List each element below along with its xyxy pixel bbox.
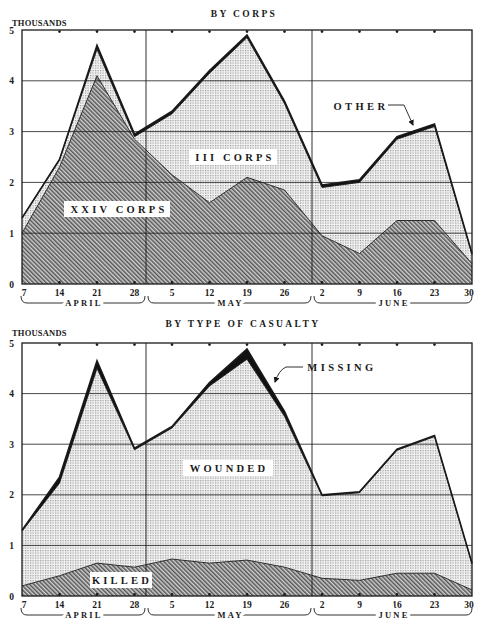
iii-corps-label: III CORPS	[195, 152, 274, 163]
x-tick-label: 2	[320, 288, 325, 298]
casualty-chart-y-unit-label: THOUSANDS	[12, 328, 67, 338]
tick-mark	[58, 281, 61, 284]
y-tick-label: 4	[9, 389, 14, 399]
x-tick-label: 28	[130, 288, 140, 298]
month-label-may: MAY	[217, 610, 243, 620]
y-tick-label: 3	[9, 440, 14, 450]
corps-chart: BY CORPS THOUSANDS 012345714212851219262…	[9, 9, 474, 308]
tick-mark	[133, 30, 136, 33]
x-tick-label: 7	[22, 288, 27, 298]
missing-label: MISSING	[307, 362, 376, 373]
corps-chart-y-unit-label: THOUSANDS	[12, 18, 67, 28]
tick-mark	[171, 343, 174, 346]
tick-mark	[133, 281, 136, 284]
x-tick-label: 16	[392, 288, 402, 298]
tick-mark	[433, 281, 436, 284]
x-tick-label: 14	[55, 288, 65, 298]
x-tick-label: 5	[170, 600, 175, 610]
y-tick-label: 4	[9, 76, 14, 86]
x-tick-label: 12	[205, 288, 215, 298]
y-tick-label: 5	[9, 339, 14, 349]
x-tick-label: 23	[430, 288, 440, 298]
x-tick-label: 21	[92, 288, 102, 298]
tick-mark	[96, 30, 99, 33]
tick-mark	[96, 593, 99, 596]
casualty-chart: BY TYPE OF CASUALTY THOUSANDS 0123457142…	[9, 319, 474, 620]
tick-mark	[358, 281, 361, 284]
other-label: OTHER	[334, 101, 389, 112]
tick-mark	[283, 343, 286, 346]
corps-chart-title: BY CORPS	[211, 9, 278, 19]
x-tick-label: 12	[205, 600, 215, 610]
y-tick-label: 5	[9, 26, 14, 36]
tick-mark	[96, 281, 99, 284]
tick-mark	[246, 281, 249, 284]
x-tick-label: 26	[280, 600, 290, 610]
month-label-june: JUNE	[379, 610, 410, 620]
tick-mark	[246, 30, 249, 33]
x-tick-label: 5	[170, 288, 175, 298]
x-tick-label: 9	[357, 288, 362, 298]
tick-mark	[396, 30, 399, 33]
figure: BY CORPS THOUSANDS 012345714212851219262…	[0, 0, 481, 624]
y-tick-label: 1	[9, 541, 14, 551]
x-tick-label: 9	[357, 600, 362, 610]
y-tick-label: 0	[9, 280, 14, 290]
month-label-june: JUNE	[379, 298, 410, 308]
tick-mark	[58, 343, 61, 346]
tick-mark	[433, 593, 436, 596]
tick-mark	[321, 593, 324, 596]
tick-mark	[358, 343, 361, 346]
tick-mark	[321, 281, 324, 284]
tick-mark	[58, 593, 61, 596]
tick-mark	[246, 343, 249, 346]
other-callout-arrow-icon	[388, 105, 413, 125]
tick-mark	[208, 343, 211, 346]
month-label-april: APRIL	[65, 298, 102, 308]
tick-mark	[358, 30, 361, 33]
tick-mark	[133, 593, 136, 596]
y-tick-label: 2	[9, 178, 14, 188]
tick-mark	[396, 281, 399, 284]
tick-mark	[58, 30, 61, 33]
tick-mark	[433, 30, 436, 33]
tick-mark	[433, 343, 436, 346]
tick-mark	[171, 281, 174, 284]
x-tick-label: 16	[392, 600, 402, 610]
x-tick-label: 26	[280, 288, 290, 298]
casualty-chart-plot: 0123457142128512192629162330APRILMAYJUNE	[9, 339, 474, 621]
tick-mark	[358, 593, 361, 596]
x-tick-label: 23	[430, 600, 440, 610]
tick-mark	[208, 281, 211, 284]
tick-mark	[396, 593, 399, 596]
tick-mark	[283, 593, 286, 596]
corps-chart-plot: 0123457142128512192629162330APRILMAYJUNE	[9, 26, 474, 309]
tick-mark	[96, 343, 99, 346]
tick-mark	[396, 343, 399, 346]
tick-mark	[283, 30, 286, 33]
missing-callout-arrow-icon	[275, 367, 303, 382]
killed-label: KILLED	[92, 575, 152, 586]
y-tick-label: 0	[9, 592, 14, 602]
y-tick-label: 2	[9, 490, 14, 500]
tick-mark	[321, 343, 324, 346]
tick-mark	[208, 593, 211, 596]
casualty-chart-title: BY TYPE OF CASUALTY	[166, 319, 321, 329]
month-label-may: MAY	[217, 298, 243, 308]
tick-mark	[246, 593, 249, 596]
x-tick-label: 30	[464, 600, 474, 610]
x-tick-label: 30	[464, 288, 474, 298]
wounded-label: WOUNDED	[190, 463, 268, 474]
y-tick-label: 1	[9, 229, 14, 239]
x-tick-label: 21	[92, 600, 102, 610]
x-tick-label: 19	[242, 600, 252, 610]
tick-mark	[171, 593, 174, 596]
tick-mark	[171, 30, 174, 33]
x-tick-label: 28	[130, 600, 140, 610]
tick-mark	[133, 343, 136, 346]
tick-mark	[283, 281, 286, 284]
month-label-april: APRIL	[65, 610, 102, 620]
tick-mark	[208, 30, 211, 33]
x-tick-label: 2	[320, 600, 325, 610]
x-tick-label: 14	[55, 600, 65, 610]
